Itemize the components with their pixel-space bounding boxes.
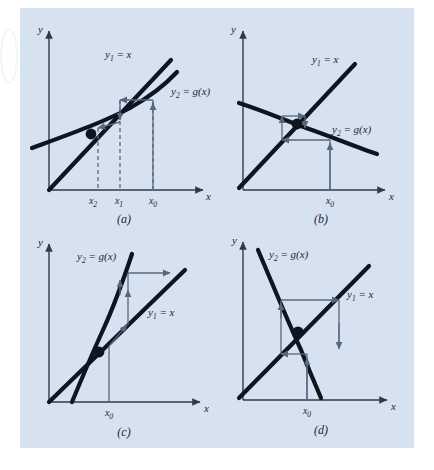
fixed-point-marker xyxy=(292,119,303,130)
subplot-d: y x y2 = g(x) y1 = x x0 xyxy=(217,228,414,448)
y-axis-label: y xyxy=(37,236,43,248)
y-axis-label: y xyxy=(230,23,236,35)
iteration-curve-label: y2 = g(x) xyxy=(268,248,309,263)
subplot-caption: (a) xyxy=(117,212,131,226)
subplot-caption: (d) xyxy=(314,423,328,437)
tick-label-x1: x1 xyxy=(114,195,123,209)
subplot-c: y x y2 = g(x) y1 = x x0 (c) xyxy=(20,228,217,448)
x-axis-label: x xyxy=(203,402,209,414)
subplot-caption: (b) xyxy=(314,212,328,226)
iteration-curve xyxy=(32,72,177,148)
identity-line-label: y1 = x xyxy=(311,53,339,68)
fixed-point-marker xyxy=(86,129,97,140)
identity-line-label: y1 = x xyxy=(104,48,132,63)
identity-line-label: y1 = x xyxy=(147,306,175,321)
iteration-curve-label: y2 = g(x) xyxy=(170,85,211,100)
iteration-curve-label: y2 = g(x) xyxy=(331,123,372,138)
iteration-curve-label: y2 = g(x) xyxy=(76,250,117,265)
tick-label-x2: x2 xyxy=(88,195,97,209)
x-axis-label: x xyxy=(388,190,394,202)
x-axis-label: x xyxy=(390,400,396,412)
y-axis-label: y xyxy=(231,234,237,246)
y-axis-label: y xyxy=(37,23,43,35)
fixed-point-marker xyxy=(292,326,303,337)
identity-line-label: y1 = x xyxy=(346,288,374,303)
page-edge-artifact xyxy=(0,28,18,84)
subplot-a: y x y1 = x y2 = g(x) xyxy=(20,8,217,228)
tick-label-x0: x0 xyxy=(104,407,113,421)
cobweb-arrow-right-0 xyxy=(109,325,127,346)
identity-line xyxy=(239,266,369,398)
subplot-caption: (c) xyxy=(117,425,130,439)
tick-label-x0: x0 xyxy=(302,405,311,419)
tick-label-x0: x0 xyxy=(325,195,334,209)
tick-label-x0: x0 xyxy=(148,195,157,209)
fixed-point-marker xyxy=(94,347,105,358)
x-axis-label: x xyxy=(205,190,211,202)
figure-root: y x y1 = x y2 = g(x) xyxy=(0,0,434,470)
subplot-b: y x y1 = x y2 = g(x) x0 (b) xyxy=(217,8,414,228)
